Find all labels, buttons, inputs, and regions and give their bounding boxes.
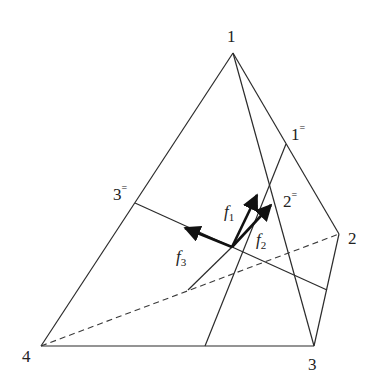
edge-1-4 [41, 53, 233, 346]
face-label-1eq: 1= [291, 122, 306, 144]
force-label-f2: f2 [256, 230, 266, 251]
vertex-label-4: 4 [22, 347, 31, 366]
vertex-label-3: 3 [308, 355, 317, 374]
face-label-3eq-main: 3 [113, 185, 122, 204]
hidden-edge-4-2 [41, 234, 339, 346]
vertex-label-2: 2 [348, 229, 357, 248]
face-label-2eq-main: 2 [283, 192, 292, 211]
construction-lines [135, 144, 327, 346]
line-1eq-to-base [205, 144, 286, 346]
force-label-f1-sub: 1 [229, 211, 235, 223]
face-label-1eq-main: 1 [291, 125, 300, 144]
face-label-1eq-mark: = [300, 122, 306, 133]
force-arrow-f3 [185, 228, 232, 247]
force-arrow-f1 [232, 195, 257, 247]
edge-1-3 [233, 53, 314, 346]
vertex-label-1: 1 [227, 27, 236, 46]
face-label-3eq: 3= [113, 182, 128, 204]
force-label-f3-sub: 3 [181, 256, 187, 268]
force-label-f1: f1 [224, 202, 234, 223]
face-label-2eq: 2= [283, 189, 298, 211]
tetrahedron-diagram: 1 2 3 4 1= 2= 3= f1 f2 f3 [0, 0, 383, 391]
vertex-labels: 1 2 3 4 [22, 27, 357, 374]
line-center-to-hidden-edge [188, 247, 232, 290]
face-label-2eq-mark: = [292, 189, 298, 200]
force-label-f2-sub: 2 [261, 239, 267, 251]
face-label-3eq-mark: = [122, 182, 128, 193]
force-label-f3: f3 [176, 247, 187, 268]
